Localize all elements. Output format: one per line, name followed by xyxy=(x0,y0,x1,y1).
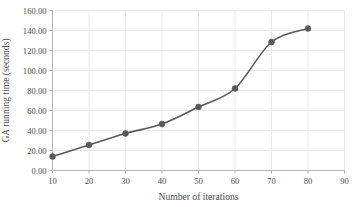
x-axis-tick-label: 10 xyxy=(48,176,57,186)
chart-figure: 0.0020.0040.0060.0080.00100.00120.00140.… xyxy=(0,0,358,207)
y-axis-tick-label: 20.00 xyxy=(27,146,46,156)
y-axis-tick-label: 100.00 xyxy=(23,66,47,76)
y-axis-tick-label: 160.00 xyxy=(23,6,47,16)
x-axis-tick-label: 50 xyxy=(194,176,203,186)
y-axis-tick-label: 40.00 xyxy=(27,126,46,136)
y-axis-tick-label: 0.00 xyxy=(31,166,46,176)
y-axis-tick-label: 80.00 xyxy=(27,86,46,96)
data-point-marker xyxy=(86,142,92,148)
data-point-marker xyxy=(123,131,129,137)
x-axis-title: Number of iterations xyxy=(159,191,239,202)
y-axis-tick-label: 140.00 xyxy=(23,26,47,36)
data-point-marker xyxy=(232,86,238,92)
x-axis-tick-label: 90 xyxy=(340,176,349,186)
y-axis-tick-label: 60.00 xyxy=(27,106,46,116)
x-axis-tick-label: 20 xyxy=(85,176,94,186)
data-point-marker xyxy=(196,104,202,110)
x-axis-tick-label: 80 xyxy=(304,176,313,186)
y-axis-tick-label: 120.00 xyxy=(23,46,47,56)
data-point-marker xyxy=(50,154,56,160)
x-axis-tick-label: 40 xyxy=(158,176,167,186)
data-point-marker xyxy=(269,39,275,45)
x-axis-tick-label: 60 xyxy=(231,176,240,186)
data-point-marker xyxy=(305,26,311,32)
line-chart: 0.0020.0040.0060.0080.00100.00120.00140.… xyxy=(0,0,358,207)
x-axis-tick-label: 30 xyxy=(121,176,130,186)
x-axis-tick-label: 70 xyxy=(267,176,276,186)
data-point-marker xyxy=(159,121,165,127)
y-axis-title: GA running time (seconds) xyxy=(0,38,12,142)
